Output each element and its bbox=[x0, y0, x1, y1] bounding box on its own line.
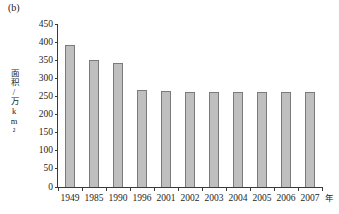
x-tick-label: 2005 bbox=[253, 192, 272, 204]
bar-2002 bbox=[185, 92, 195, 187]
y-tick-label: 300 bbox=[39, 72, 53, 84]
x-tick-label: 1990 bbox=[109, 192, 128, 204]
y-tick-mark bbox=[55, 78, 59, 79]
y-tick-mark bbox=[55, 60, 59, 61]
x-axis-unit-label: 年 bbox=[325, 193, 334, 204]
y-tick-mark bbox=[55, 42, 59, 43]
x-tick-label: 2004 bbox=[229, 192, 248, 204]
x-tick-mark bbox=[178, 187, 179, 191]
y-tick-label: 450 bbox=[39, 18, 53, 30]
y-axis-title: 面积/万km² bbox=[4, 52, 18, 152]
y-tick-mark bbox=[55, 132, 59, 133]
bar-2004 bbox=[233, 92, 243, 187]
x-tick-mark bbox=[154, 187, 155, 191]
x-tick-mark bbox=[298, 187, 299, 191]
x-tick-label: 2001 bbox=[157, 192, 176, 204]
y-tick-label: 0 bbox=[48, 181, 53, 193]
y-tick-mark bbox=[55, 114, 59, 115]
x-tick-label: 2003 bbox=[205, 192, 224, 204]
bar-2006 bbox=[281, 92, 291, 187]
y-tick-label: 350 bbox=[39, 54, 53, 66]
x-tick-mark bbox=[130, 187, 131, 191]
x-tick-mark bbox=[250, 187, 251, 191]
bar-2003 bbox=[209, 92, 219, 187]
bar-1985 bbox=[89, 60, 99, 188]
x-tick-mark bbox=[58, 187, 59, 191]
bar-1990 bbox=[113, 63, 123, 187]
x-tick-mark bbox=[202, 187, 203, 191]
y-tick-label: 100 bbox=[39, 144, 53, 156]
x-tick-label: 2007 bbox=[301, 192, 320, 204]
y-tick-mark bbox=[55, 24, 59, 25]
bar-1949 bbox=[65, 45, 75, 187]
x-tick-label: 2002 bbox=[181, 192, 200, 204]
bar-1996 bbox=[137, 90, 147, 187]
bar-2005 bbox=[257, 92, 267, 187]
plot-area: 050100150200250300350400450 194919851990… bbox=[57, 24, 322, 188]
x-tick-label: 2006 bbox=[277, 192, 296, 204]
x-tick-mark bbox=[322, 187, 323, 191]
bar-2001 bbox=[161, 91, 171, 187]
bar-2007 bbox=[305, 92, 315, 187]
y-tick-label: 200 bbox=[39, 108, 53, 120]
y-tick-label: 150 bbox=[39, 126, 53, 138]
x-tick-mark bbox=[106, 187, 107, 191]
y-tick-mark bbox=[55, 96, 59, 97]
x-tick-label: 1996 bbox=[133, 192, 152, 204]
x-tick-mark bbox=[274, 187, 275, 191]
y-tick-label: 250 bbox=[39, 90, 53, 102]
y-tick-mark bbox=[55, 150, 59, 151]
x-tick-label: 1985 bbox=[85, 192, 104, 204]
x-tick-mark bbox=[82, 187, 83, 191]
y-tick-label: 50 bbox=[44, 162, 54, 174]
bar-chart-figure: (b) 面积/万km² 050100150200250300350400450 … bbox=[0, 0, 339, 214]
x-tick-label: 1949 bbox=[61, 192, 80, 204]
panel-label: (b) bbox=[8, 2, 20, 14]
y-tick-label: 400 bbox=[39, 36, 53, 48]
y-tick-mark bbox=[55, 168, 59, 169]
x-tick-mark bbox=[226, 187, 227, 191]
